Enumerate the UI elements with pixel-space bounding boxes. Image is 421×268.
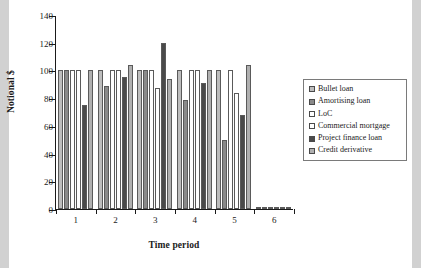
bar — [110, 70, 115, 209]
bar — [216, 70, 221, 209]
x-axis-tick — [254, 209, 255, 214]
x-axis-tick — [215, 209, 216, 214]
bar — [167, 79, 172, 209]
bar — [143, 70, 148, 209]
legend-item-label: Amortising loan — [318, 97, 370, 106]
plot-area: 020406080100120140 123456 — [55, 16, 293, 210]
bar — [268, 207, 273, 209]
bar — [76, 70, 81, 209]
bar-group — [56, 16, 96, 209]
bar — [58, 70, 63, 209]
x-axis-tick — [135, 209, 136, 214]
legend-item-label: Project finance loan — [318, 134, 382, 143]
x-axis-tick-label: 4 — [193, 216, 198, 225]
x-axis-tick — [294, 209, 295, 214]
legend-item-label: Bullet loan — [318, 85, 353, 94]
bar — [240, 115, 245, 209]
legend-swatch-icon — [309, 148, 315, 154]
bar — [128, 65, 133, 209]
bar — [88, 70, 93, 209]
bar — [201, 83, 206, 209]
bar — [262, 207, 267, 209]
bar-group — [175, 16, 215, 209]
bar — [149, 70, 154, 209]
legend: Bullet loanAmortising loanLoCCommercial … — [303, 79, 407, 161]
bar — [161, 43, 166, 209]
bar — [274, 207, 279, 209]
bar — [207, 70, 212, 209]
bar — [64, 70, 69, 209]
legend-item[interactable]: Amortising loan — [309, 97, 403, 106]
x-axis-tick-label: 3 — [153, 216, 158, 225]
bar — [137, 70, 142, 209]
legend-swatch-icon — [309, 136, 315, 142]
bar — [246, 65, 251, 209]
legend-item-label: Commercial mortgage — [318, 122, 390, 131]
legend-item[interactable]: Project finance loan — [309, 134, 403, 143]
bar — [280, 207, 285, 209]
bar — [286, 207, 291, 209]
bar — [189, 70, 194, 209]
x-axis-tick-label: 5 — [232, 216, 237, 225]
x-axis-tick — [175, 209, 176, 214]
y-axis-tick-label: 120 — [40, 39, 54, 48]
chart-figure: Notional $ 020406080100120140 123456 Tim… — [0, 0, 421, 268]
legend-item-label: Credit derivative — [318, 146, 372, 155]
y-axis-tick-label: 80 — [44, 95, 53, 104]
bar — [183, 100, 188, 209]
legend-swatch-icon — [309, 123, 315, 129]
x-axis-tick — [96, 209, 97, 214]
bar — [98, 70, 103, 209]
bar — [70, 70, 75, 209]
y-axis-tick-label: 100 — [40, 67, 54, 76]
x-axis-title: Time period — [55, 240, 293, 250]
x-axis-tick — [56, 209, 57, 214]
legend-swatch-icon — [309, 99, 315, 105]
bar — [195, 70, 200, 209]
bar-group — [254, 16, 294, 209]
y-axis-tick-label: 60 — [44, 122, 53, 131]
legend-item[interactable]: Credit derivative — [309, 146, 403, 155]
y-axis-tick-label: 140 — [40, 12, 54, 21]
bar — [116, 70, 121, 209]
y-axis-tick-label: 0 — [49, 206, 54, 215]
bar — [234, 93, 239, 209]
x-axis-tick-label: 1 — [74, 216, 79, 225]
bar — [82, 105, 87, 209]
bar-group — [214, 16, 254, 209]
y-axis-title: Notional $ — [6, 70, 16, 113]
bar — [104, 86, 109, 209]
legend-swatch-icon — [309, 111, 315, 117]
legend-item[interactable]: Bullet loan — [309, 85, 403, 94]
y-axis-tick-label: 40 — [44, 150, 53, 159]
bar — [177, 70, 182, 209]
y-axis-tick-label: 20 — [44, 178, 53, 187]
bar — [155, 88, 160, 209]
x-axis-tick-label: 2 — [113, 216, 118, 225]
bar — [256, 207, 261, 209]
bar-group — [135, 16, 175, 209]
legend-item-label: LoC — [318, 110, 332, 119]
bar-group — [96, 16, 136, 209]
legend-swatch-icon — [309, 86, 315, 92]
x-axis-tick-label: 6 — [272, 216, 277, 225]
bars-layer — [56, 16, 293, 209]
bar — [122, 77, 127, 209]
bar — [222, 140, 227, 209]
bar — [228, 70, 233, 209]
legend-item[interactable]: LoC — [309, 110, 403, 119]
legend-item[interactable]: Commercial mortgage — [309, 122, 403, 131]
